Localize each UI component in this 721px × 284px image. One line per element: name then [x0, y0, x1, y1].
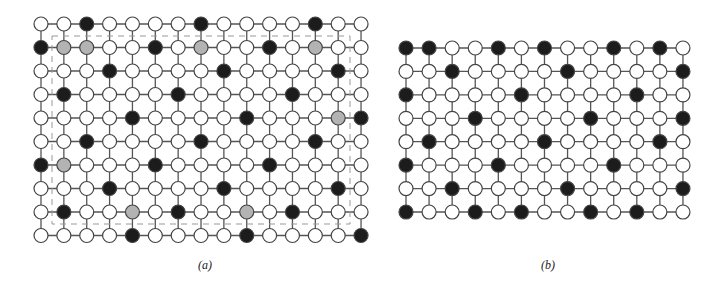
node-white	[80, 158, 94, 172]
node-white	[263, 182, 277, 196]
node-white	[57, 17, 71, 31]
node-black	[491, 158, 505, 172]
node-white	[422, 88, 436, 102]
node-black	[354, 111, 368, 125]
node-white	[561, 41, 575, 55]
node-black	[399, 205, 413, 219]
node-gray	[125, 205, 139, 219]
panel-a	[34, 17, 368, 243]
node-white	[194, 182, 208, 196]
node-white	[171, 17, 185, 31]
node-black	[194, 17, 208, 31]
node-white	[445, 158, 459, 172]
node-white	[630, 41, 644, 55]
node-white	[445, 88, 459, 102]
node-black	[607, 158, 621, 172]
node-white	[584, 135, 598, 149]
node-white	[34, 182, 48, 196]
node-white	[57, 135, 71, 149]
node-gray	[194, 41, 208, 55]
node-white	[34, 17, 48, 31]
node-gray	[308, 41, 322, 55]
node-white	[676, 205, 690, 219]
node-white	[217, 88, 231, 102]
node-black	[103, 64, 117, 78]
node-black	[422, 41, 436, 55]
node-white	[80, 205, 94, 219]
node-black	[194, 135, 208, 149]
node-white	[285, 41, 299, 55]
node-white	[308, 111, 322, 125]
node-white	[240, 17, 254, 31]
node-white	[125, 88, 139, 102]
node-white	[57, 182, 71, 196]
node-white	[125, 135, 139, 149]
node-white	[514, 158, 528, 172]
node-white	[240, 135, 254, 149]
caption-a: (a)	[198, 258, 212, 273]
node-white	[653, 158, 667, 172]
node-white	[148, 17, 162, 31]
node-white	[80, 229, 94, 243]
node-white	[57, 64, 71, 78]
node-white	[653, 64, 667, 78]
node-white	[263, 88, 277, 102]
node-black	[171, 88, 185, 102]
node-white	[171, 41, 185, 55]
node-white	[194, 158, 208, 172]
node-black	[468, 205, 482, 219]
node-white	[445, 41, 459, 55]
node-white	[34, 205, 48, 219]
node-white	[103, 17, 117, 31]
node-white	[561, 205, 575, 219]
node-white	[331, 17, 345, 31]
lattice-edges	[41, 24, 361, 236]
node-black	[217, 182, 231, 196]
node-white	[263, 111, 277, 125]
node-white	[148, 111, 162, 125]
node-black	[240, 229, 254, 243]
node-white	[194, 88, 208, 102]
node-black	[57, 205, 71, 219]
node-white	[653, 205, 667, 219]
node-white	[630, 64, 644, 78]
node-white	[491, 111, 505, 125]
node-white	[561, 135, 575, 149]
node-black	[491, 41, 505, 55]
node-black	[676, 182, 690, 196]
node-white	[584, 41, 598, 55]
node-white	[285, 111, 299, 125]
node-white	[468, 182, 482, 196]
node-white	[537, 64, 551, 78]
node-black	[217, 64, 231, 78]
node-white	[125, 182, 139, 196]
node-white	[491, 64, 505, 78]
node-black	[34, 158, 48, 172]
node-black	[263, 158, 277, 172]
node-white	[561, 111, 575, 125]
node-white	[194, 229, 208, 243]
node-black	[468, 111, 482, 125]
node-white	[331, 229, 345, 243]
node-white	[285, 158, 299, 172]
node-white	[285, 229, 299, 243]
node-white	[217, 41, 231, 55]
node-white	[422, 111, 436, 125]
node-white	[514, 41, 528, 55]
node-white	[80, 88, 94, 102]
node-white	[399, 64, 413, 78]
node-black	[630, 205, 644, 219]
node-black	[514, 88, 528, 102]
node-gray	[240, 205, 254, 219]
node-white	[103, 88, 117, 102]
node-white	[34, 111, 48, 125]
node-white	[630, 182, 644, 196]
node-white	[354, 135, 368, 149]
node-black	[445, 182, 459, 196]
node-black	[34, 41, 48, 55]
node-white	[308, 64, 322, 78]
node-black	[422, 135, 436, 149]
node-black	[399, 158, 413, 172]
lattice-figure	[0, 0, 721, 284]
node-white	[422, 64, 436, 78]
